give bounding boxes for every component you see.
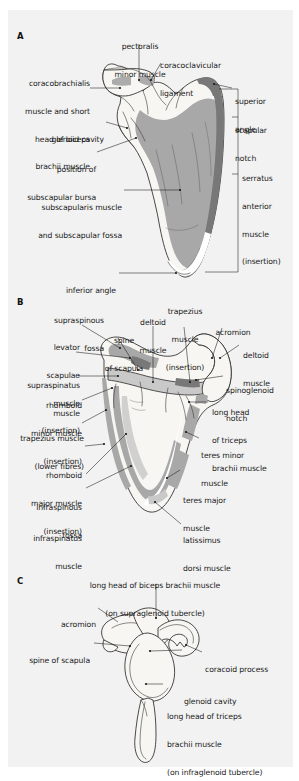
label-line: position of [4, 165, 96, 174]
label-line: and subscapular fossa [6, 231, 122, 240]
label-line: long head of triceps [167, 712, 293, 721]
label-line: coracoid process [205, 665, 289, 674]
label-line: (insertion) [242, 257, 298, 266]
label-line: serratus [242, 174, 298, 183]
label-line: ligament [160, 89, 246, 98]
label-line: superior [235, 97, 293, 106]
label-line: long head of biceps brachii muscle [62, 581, 248, 590]
label-line: brachii muscle [167, 740, 293, 749]
label-spine-of-scapula-c: spine of scapula [10, 638, 90, 684]
label-line: levator [20, 343, 80, 352]
label-line: coracobrachialis [6, 79, 90, 88]
label-line: teres major [183, 496, 253, 505]
label-line: anterior [242, 202, 298, 211]
label-line: (insertion) [162, 363, 208, 372]
label-long-head-of-triceps-brachii-muscle-c: long head of triceps brachii muscle (on … [167, 694, 293, 781]
label-line: inferior angle [40, 286, 116, 295]
label-line: latissimus [183, 536, 257, 545]
label-coracoclavicular-ligament: coracoclavicular ligament [160, 43, 246, 117]
label-line: rhomboid [10, 471, 82, 480]
label-line: scapular [235, 126, 293, 135]
label-line: spine of scapula [10, 656, 90, 665]
label-line: muscle [242, 230, 298, 239]
label-line: muscle and short [6, 107, 90, 116]
label-line: deltoid [243, 351, 295, 360]
panel-letter-a: A [17, 31, 24, 41]
label-line: (on infraglenoid tubercle) [167, 768, 293, 777]
label-line: subscapularis muscle [6, 203, 122, 212]
label-line: muscle [162, 335, 208, 344]
label-line: acromion [40, 620, 96, 629]
label-line: trapezius [162, 307, 208, 316]
label-subscapularis-muscle-and-fossa: subscapularis muscle and subscapular fos… [6, 185, 122, 259]
label-serratus-anterior-muscle-insertion: serratus anterior muscle (insertion) [242, 156, 298, 285]
label-line: infraspinous [16, 503, 82, 512]
label-line: teres minor [201, 451, 271, 460]
label-line: infraspinatus [14, 534, 82, 543]
label-line: coracoclavicular [160, 61, 246, 70]
label-line: rhomboid [10, 401, 82, 410]
label-line: long head [212, 408, 294, 417]
label-line: glenoid cavity [14, 135, 104, 144]
label-line: trapezius muscle [2, 434, 84, 443]
panel-letter-b: B [17, 297, 23, 307]
label-trapezius-muscle-insertion: trapezius muscle (insertion) [162, 289, 208, 390]
